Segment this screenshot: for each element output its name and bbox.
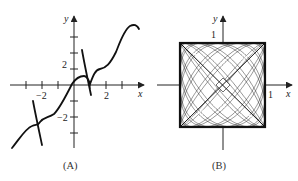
y-axis-label-b: y <box>212 13 218 24</box>
x-tick-label-neg2: −2 <box>36 90 47 101</box>
y-tick-label-1: 1 <box>211 29 216 40</box>
y-tick-label-2: 2 <box>62 59 67 70</box>
figure-a: −2 2 2 −2 x y (A) <box>10 13 144 172</box>
figure-canvas: −2 2 2 −2 x y (A) 1 1 x y (B) <box>0 0 298 181</box>
caption-b: (B) <box>212 160 227 172</box>
x-tick-label-2: 2 <box>104 90 109 101</box>
lissajous-mesh <box>180 43 265 127</box>
steep-segment-right <box>82 50 91 95</box>
y-axis-label-a: y <box>63 13 69 24</box>
x-axis-label-b: x <box>285 88 291 99</box>
steep-segment-left <box>33 101 42 145</box>
x-tick-label-1: 1 <box>268 89 273 100</box>
figure-b: 1 1 x y (B) <box>157 13 292 172</box>
main-curve-a <box>12 25 139 148</box>
caption-a: (A) <box>63 160 78 172</box>
x-axis-label-a: x <box>137 88 143 99</box>
y-tick-label-neg2: −2 <box>57 112 68 123</box>
